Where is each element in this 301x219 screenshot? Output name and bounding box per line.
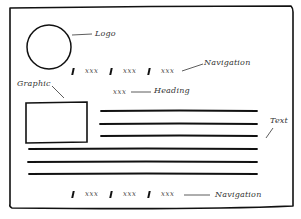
text-line xyxy=(29,174,257,175)
logo-annotation: Logo xyxy=(95,29,116,38)
top-nav-leader-line xyxy=(182,64,203,71)
bottom-nav-annotation: Navigation xyxy=(215,190,261,199)
graphic-annotation: Graphic xyxy=(17,79,51,88)
text-line xyxy=(100,124,257,125)
bottom-nav-item[interactable]: xxx xyxy=(123,190,136,198)
heading-placeholder: xxx xyxy=(113,88,126,96)
text-annotation: Text xyxy=(270,116,288,125)
bottom-nav-item[interactable]: xxx xyxy=(161,190,174,198)
top-nav-item[interactable]: xxx xyxy=(85,67,98,75)
top-nav-item[interactable]: xxx xyxy=(123,67,136,75)
graphic-placeholder xyxy=(26,102,87,143)
text-line xyxy=(101,136,257,137)
wireframe-sketch xyxy=(0,0,301,219)
bottom-nav-item[interactable]: xxx xyxy=(85,190,98,198)
wireframe-canvas: Logo xxx xxx xxx Navigation xxx Heading … xyxy=(0,0,301,219)
top-nav-item[interactable]: xxx xyxy=(161,67,174,75)
text-leader-line xyxy=(266,128,273,138)
top-nav-annotation: Navigation xyxy=(204,58,250,67)
text-line xyxy=(29,149,257,150)
logo-leader-line xyxy=(72,34,92,35)
logo-circle-icon xyxy=(27,25,71,69)
text-line xyxy=(101,111,257,112)
page-frame xyxy=(10,6,293,209)
graphic-leader-line xyxy=(52,86,64,98)
heading-annotation: Heading xyxy=(154,86,190,95)
text-line xyxy=(28,162,257,163)
